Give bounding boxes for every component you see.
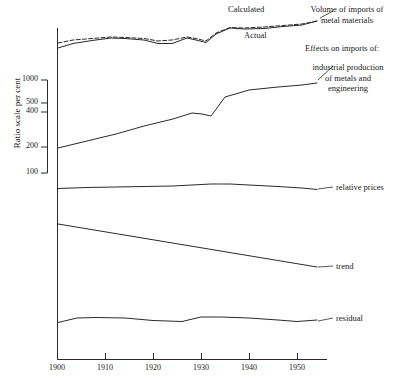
x-tick-label-1920: 1920 [138, 363, 168, 372]
series-residual [58, 317, 317, 323]
annotation-leader-lines [318, 11, 333, 321]
y-tick-label-400: 400 [10, 106, 38, 115]
annotation-relative-prices: relative prices [336, 182, 384, 193]
annotation-imports-volume-line2: metal materials [300, 15, 394, 26]
series-actual [58, 21, 317, 48]
x-tick-label-1940: 1940 [234, 363, 264, 372]
x-tick-label-1910: 1910 [90, 363, 120, 372]
annotation-imports-volume-line1: Volume of imports of [300, 4, 394, 15]
y-tick-label-1000: 1000 [10, 74, 38, 83]
annotation-industrial-production-line3: engineering [302, 83, 394, 94]
y-axis-scale-bar [41, 80, 48, 173]
annotation-actual: Actual [244, 30, 267, 41]
annotation-effects-heading: Effects on imports of: [305, 43, 395, 54]
annotation-imports-volume: Volume of imports of metal materials [300, 4, 394, 25]
y-tick-label-100: 100 [10, 167, 38, 176]
annotation-residual: residual [336, 313, 363, 324]
x-tick-label-1900: 1900 [42, 363, 72, 372]
chart-canvas [0, 0, 396, 388]
annotation-calculated: Calculated [228, 4, 264, 15]
annotation-industrial-production-line2: of metals and [302, 73, 394, 84]
chart-figure: Ratio scale per cent 1000 500 400 200 10… [0, 0, 396, 388]
x-tick-label-1930: 1930 [186, 363, 216, 372]
x-axis-ticks [58, 353, 298, 360]
series-relative-prices [58, 184, 317, 190]
annotation-industrial-production: industrial production of metals and engi… [302, 62, 394, 94]
y-tick-label-500: 500 [10, 97, 38, 106]
series-industrial-production [58, 83, 317, 148]
annotation-trend: trend [336, 261, 353, 272]
x-tick-label-1950: 1950 [282, 363, 312, 372]
series-trend [58, 224, 317, 267]
annotation-industrial-production-line1: industrial production [302, 62, 394, 73]
y-tick-label-200: 200 [10, 141, 38, 150]
